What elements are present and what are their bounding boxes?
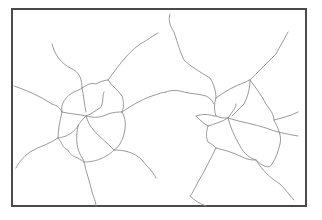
network-line xyxy=(86,116,114,150)
network-line xyxy=(216,80,250,98)
network-line xyxy=(58,126,78,138)
network-line xyxy=(108,80,124,112)
network-line xyxy=(215,98,229,118)
network-line xyxy=(62,88,82,112)
network-line xyxy=(228,118,298,136)
network-line xyxy=(14,86,62,112)
network-line xyxy=(122,92,166,112)
network-line xyxy=(108,33,158,80)
network-line xyxy=(272,120,281,164)
network-line xyxy=(196,115,216,117)
network-line xyxy=(114,112,125,150)
network-line xyxy=(52,44,82,88)
network-line xyxy=(208,118,228,126)
network-line xyxy=(78,116,86,126)
network-line xyxy=(82,80,108,88)
network-line xyxy=(82,88,86,112)
network-line xyxy=(86,112,122,117)
network-line xyxy=(196,116,208,126)
network-line xyxy=(190,148,216,196)
network-line xyxy=(207,126,217,148)
line-network xyxy=(0,0,322,220)
network-line xyxy=(77,126,84,162)
diagram-canvas xyxy=(0,0,322,220)
network-line xyxy=(86,92,104,116)
network-line xyxy=(250,80,274,120)
network-line xyxy=(84,150,114,162)
network-line xyxy=(166,91,214,105)
network-line xyxy=(114,150,156,178)
network-line xyxy=(16,138,58,168)
network-line xyxy=(58,112,62,138)
network-line xyxy=(216,148,256,160)
network-line xyxy=(190,196,206,206)
network-line xyxy=(62,112,86,116)
network-line xyxy=(274,112,298,120)
network-line xyxy=(250,32,288,80)
network-line xyxy=(232,80,250,116)
network-line xyxy=(58,138,84,162)
network-line xyxy=(84,162,96,206)
network-line xyxy=(169,14,216,98)
network-line xyxy=(256,160,294,200)
